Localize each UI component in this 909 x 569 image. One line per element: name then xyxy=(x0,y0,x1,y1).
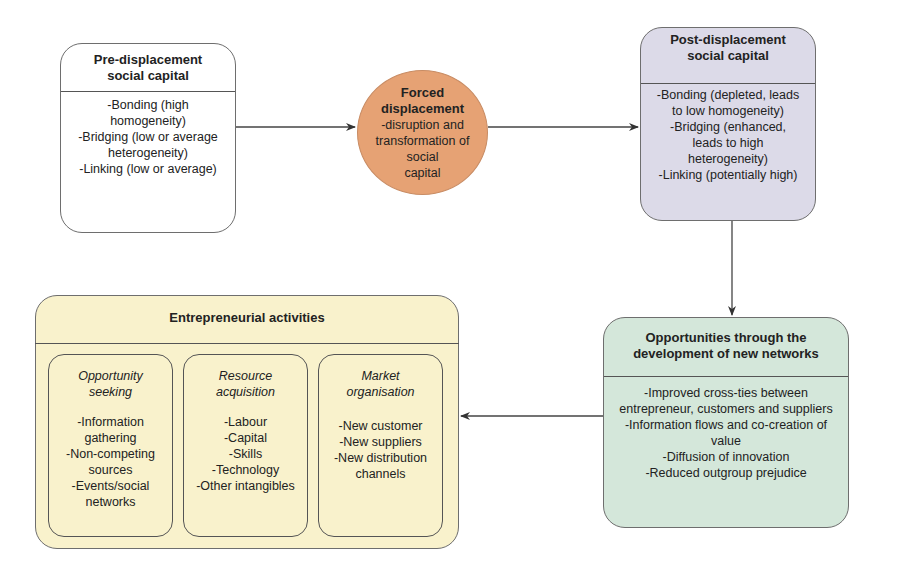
item-line: -Labour xyxy=(184,414,307,430)
item-line: heterogeneity) xyxy=(641,151,815,167)
market-organisation-box: Market organisation -New customer -New s… xyxy=(318,354,443,537)
item-line: -Bonding (depleted, leads xyxy=(641,87,815,103)
title-line: Opportunities through the xyxy=(604,330,848,346)
pre-displacement-box: Pre-displacement social capital -Bonding… xyxy=(60,43,236,233)
item-line: -Skills xyxy=(184,446,307,462)
opportunities-items: -Improved cross-ties between entrepreneu… xyxy=(604,377,848,481)
desc-line: transformation of social xyxy=(362,133,483,165)
title-line: Pre-displacement xyxy=(61,52,235,68)
desc-line: -disruption and xyxy=(362,117,483,133)
desc-line: capital xyxy=(362,165,483,181)
post-displacement-box: Post-displacement social capital -Bondin… xyxy=(640,27,816,221)
opportunities-title: Opportunities through the development of… xyxy=(604,318,848,376)
title-line: Market xyxy=(319,368,442,384)
title-line: organisation xyxy=(319,384,442,400)
entrepreneurial-activities-title: Entrepreneurial activities xyxy=(36,296,458,343)
resource-acquisition-items: -Labour -Capital -Skills -Technology -Ot… xyxy=(184,408,307,494)
title-line: social capital xyxy=(641,48,815,64)
opportunity-seeking-title: Opportunity seeking xyxy=(49,355,172,408)
title-line: Post-displacement xyxy=(641,32,815,48)
item-line: value xyxy=(607,433,845,449)
item-line: to low homogeneity) xyxy=(641,103,815,119)
item-line: -Non-competing xyxy=(49,446,172,462)
item-line: -Diffusion of innovation xyxy=(607,449,845,465)
item-line: -Linking (low or average) xyxy=(64,161,232,177)
post-displacement-title: Post-displacement social capital xyxy=(641,28,815,83)
item-line: -Events/social xyxy=(49,478,172,494)
item-line: sources xyxy=(49,462,172,478)
item-line: -Reduced outgroup prejudice xyxy=(607,465,845,481)
title-line: social capital xyxy=(61,68,235,84)
item-line: heterogeneity) xyxy=(64,145,232,161)
item-line: -New customer xyxy=(319,418,442,434)
market-organisation-title: Market organisation xyxy=(319,355,442,408)
item-line: -Linking (potentially high) xyxy=(641,167,815,183)
item-line: -Other intangibles xyxy=(184,478,307,494)
item-line: -Bonding (high xyxy=(64,97,232,113)
item-line: leads to high xyxy=(641,135,815,151)
item-line: -Bridging (enhanced, xyxy=(641,119,815,135)
title-line: acquisition xyxy=(184,384,307,400)
entrepreneurial-activities-box: Entrepreneurial activities Opportunity s… xyxy=(35,295,459,549)
opportunity-seeking-box: Opportunity seeking -Information gatheri… xyxy=(48,354,173,537)
item-line: -Bridging (low or average xyxy=(64,129,232,145)
title-line: development of new networks xyxy=(604,346,848,362)
item-line: networks xyxy=(49,494,172,510)
resource-acquisition-box: Resource acquisition -Labour -Capital -S… xyxy=(183,354,308,537)
title-line: seeking xyxy=(49,384,172,400)
item-line: -New distribution xyxy=(319,450,442,466)
item-line: channels xyxy=(319,466,442,482)
item-line: gathering xyxy=(49,430,172,446)
item-line: -New suppliers xyxy=(319,434,442,450)
title-line: Opportunity xyxy=(49,368,172,384)
forced-displacement-title: Forced displacement xyxy=(358,85,487,117)
item-line: -Information xyxy=(49,414,172,430)
pre-displacement-items: -Bonding (high homogeneity) -Bridging (l… xyxy=(61,92,235,177)
title-line: Resource xyxy=(184,368,307,384)
post-displacement-items: -Bonding (depleted, leads to low homogen… xyxy=(641,84,815,183)
item-line: homogeneity) xyxy=(64,113,232,129)
opportunity-seeking-items: -Information gathering -Non-competing so… xyxy=(49,408,172,510)
market-organisation-items: -New customer -New suppliers -New distri… xyxy=(319,408,442,482)
divider xyxy=(35,343,459,344)
opportunities-box: Opportunities through the development of… xyxy=(603,317,849,528)
resource-acquisition-title: Resource acquisition xyxy=(184,355,307,408)
item-line: -Information flows and co-creation of xyxy=(607,417,845,433)
item-line: -Capital xyxy=(184,430,307,446)
forced-displacement-node: Forced displacement -disruption and tran… xyxy=(357,70,488,195)
forced-displacement-description: -disruption and transformation of social… xyxy=(358,117,487,181)
item-line: entrepreneur, customers and suppliers xyxy=(607,401,845,417)
pre-displacement-title: Pre-displacement social capital xyxy=(61,44,235,91)
item-line: -Improved cross-ties between xyxy=(607,385,845,401)
item-line: -Technology xyxy=(184,462,307,478)
